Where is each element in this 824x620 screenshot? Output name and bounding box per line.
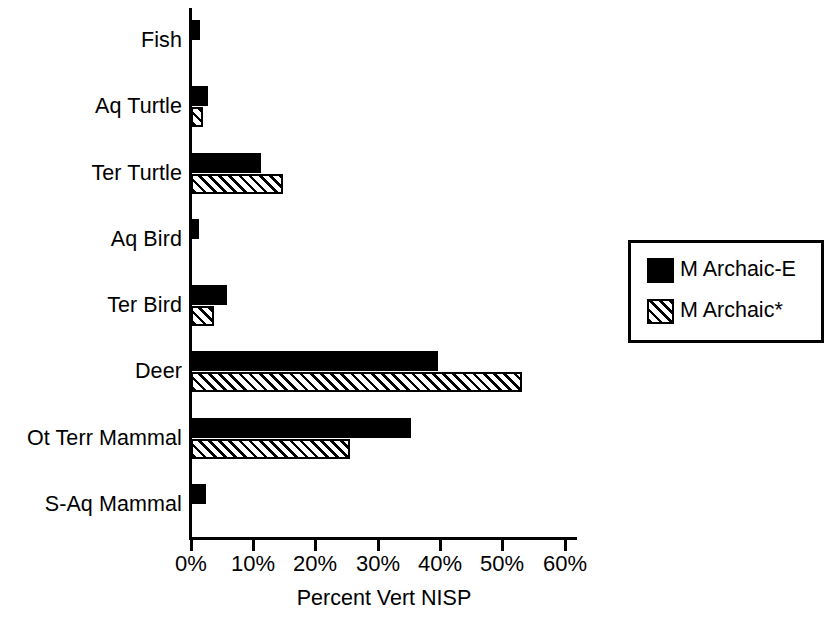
x-tick-mark-0 [190,540,193,551]
x-tick-label-50: 50% [480,553,524,575]
x-tick-label-40: 40% [418,553,462,575]
x-tick-mark-40 [439,540,442,551]
legend-item-m-archaic: M Archaic* [647,297,783,325]
x-tick-mark-50 [501,540,504,551]
x-tick-label-20: 20% [293,553,337,575]
x-tick-mark-30 [377,540,380,551]
x-tick-label-0: 0% [175,553,207,575]
x-tick-mark-10 [252,540,255,551]
legend-label-m-archaic-e: M Archaic-E [680,259,796,281]
x-tick-label-60: 60% [543,553,587,575]
x-tick-mark-60 [564,540,567,551]
legend-item-m-archaic-e: M Archaic-E [647,256,796,284]
chart-legend: M Archaic-E M Archaic* [628,240,824,343]
legend-swatch-hatch-icon [647,299,674,324]
legend-label-m-archaic: M Archaic* [680,300,783,322]
legend-swatch-solid-icon [647,258,674,283]
x-tick-label-10: 10% [231,553,275,575]
x-tick-mark-20 [314,540,317,551]
x-axis-title: Percent Vert NISP [190,588,578,610]
x-tick-label-30: 30% [356,553,400,575]
